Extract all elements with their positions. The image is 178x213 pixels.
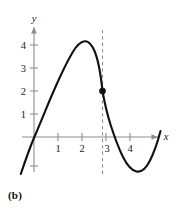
- y-tick-label-2: 2: [21, 86, 26, 97]
- panel-label: (b): [8, 189, 22, 201]
- x-axis-label: x: [163, 131, 169, 142]
- x-tick-label-1: 1: [55, 143, 60, 154]
- x-tick-label-2: 2: [79, 143, 84, 154]
- function-curve: [21, 41, 161, 174]
- x-axis: [22, 134, 158, 140]
- x-tick-label-4: 4: [127, 143, 133, 154]
- y-axis: [31, 27, 37, 172]
- x-tick-label-3: 3: [104, 143, 109, 154]
- y-tick-label-4: 4: [21, 40, 27, 51]
- graph-svg: 1 2 3 4 1 2 3 4 x y: [0, 0, 178, 213]
- y-axis-label: y: [31, 13, 37, 24]
- y-axis-arrow: [31, 27, 37, 34]
- x-axis-arrow: [152, 134, 159, 140]
- y-tick-label-3: 3: [21, 63, 26, 74]
- y-tick-label-1: 1: [21, 109, 26, 120]
- figure-panel: 1 2 3 4 1 2 3 4 x y: [0, 0, 178, 213]
- point-marker: [99, 88, 105, 94]
